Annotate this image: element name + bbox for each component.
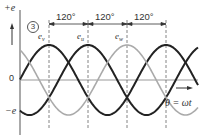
y-axis-negative-label: −e (5, 106, 16, 116)
phase-label-eu: eu (77, 32, 84, 42)
x-axis-label: θ = ωt (165, 98, 192, 108)
up-arrow-icon (10, 23, 14, 29)
phase-dimension-arrows (49, 23, 166, 26)
y-axis-positive-label: +e (4, 3, 15, 13)
origin-label: 0 (9, 74, 14, 83)
peak-guide-lines (49, 20, 166, 128)
phase-label-ew: ew (115, 32, 123, 42)
phase-label-ev: ev (38, 32, 45, 42)
right-arrow-icon (187, 86, 193, 90)
phase-interval-3: 120° (134, 11, 154, 22)
phase-interval-1: 120° (56, 11, 76, 22)
phase-interval-2: 120° (95, 11, 115, 22)
